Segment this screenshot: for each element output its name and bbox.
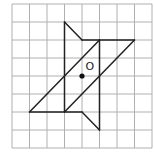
center-label: O	[86, 60, 95, 73]
center-point	[79, 73, 84, 78]
grid-diagram: O	[0, 0, 154, 155]
